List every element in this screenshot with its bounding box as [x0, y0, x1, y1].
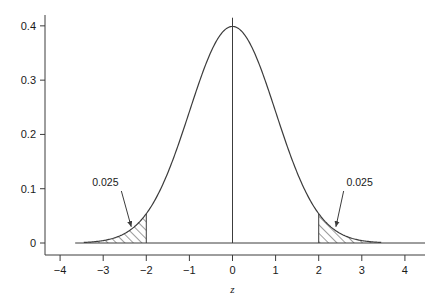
y-tick-label: 0: [30, 237, 36, 249]
y-tick-label: 0.3: [21, 74, 36, 86]
x-axis-title: z: [229, 283, 235, 295]
x-tick-label: −2: [140, 264, 153, 276]
plot-area: 00.10.20.30.4−4−3−2−101234z0.0250.025: [21, 15, 425, 295]
shaded-region-right-tail: [319, 214, 379, 243]
right-area-label-arrow: [336, 191, 344, 227]
x-tick-label: 0: [229, 264, 235, 276]
left-area-label-arrow: [121, 191, 131, 227]
x-tick-label: 1: [273, 264, 279, 276]
x-tick-label: 3: [359, 264, 365, 276]
y-tick-label: 0.4: [21, 20, 36, 32]
normal-distribution-chart: 00.10.20.30.4−4−3−2−101234z0.0250.025: [0, 0, 440, 302]
shaded-region-left-tail: [86, 214, 146, 243]
x-tick-label: 4: [402, 264, 408, 276]
right-area-label: 0.025: [347, 176, 373, 188]
x-tick-label: 2: [316, 264, 322, 276]
x-tick-label: −1: [183, 264, 196, 276]
chart-svg: 00.10.20.30.4−4−3−2−101234z0.0250.025: [0, 0, 440, 302]
x-tick-label: −4: [54, 264, 67, 276]
x-tick-label: −3: [97, 264, 110, 276]
left-area-label: 0.025: [92, 176, 118, 188]
y-tick-label: 0.2: [21, 128, 36, 140]
y-tick-label: 0.1: [21, 183, 36, 195]
